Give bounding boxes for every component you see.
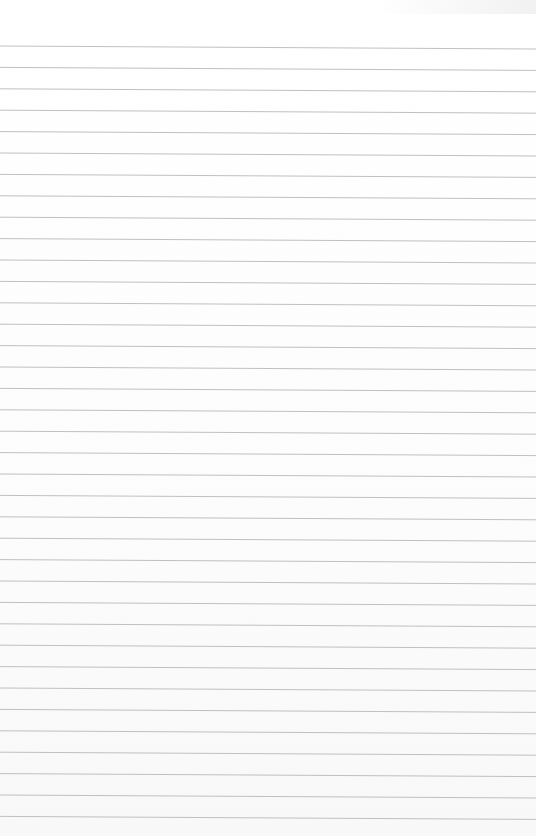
ruled-line	[0, 602, 536, 605]
ruled-line	[0, 774, 536, 777]
ruled-line	[0, 538, 536, 541]
ruled-line	[0, 431, 536, 434]
ruled-line	[0, 581, 536, 584]
ruled-line	[0, 367, 536, 370]
ruled-line	[0, 174, 536, 177]
ruled-line	[0, 67, 536, 70]
ruled-line	[0, 474, 536, 477]
ruled-line	[0, 688, 536, 691]
ruled-line	[0, 517, 536, 520]
ruled-line	[0, 731, 536, 734]
ruled-lines	[0, 0, 536, 836]
ruled-line	[0, 795, 536, 798]
ruled-line	[0, 645, 536, 648]
ruled-line	[0, 132, 536, 135]
ruled-line	[0, 453, 536, 456]
ruled-line	[0, 260, 536, 263]
ruled-line	[0, 709, 536, 712]
ruled-line	[0, 217, 536, 220]
ruled-line	[0, 624, 536, 627]
ruled-line	[0, 560, 536, 563]
lined-paper-sheet	[0, 0, 536, 836]
ruled-line	[0, 239, 536, 242]
ruled-line	[0, 303, 536, 306]
ruled-line	[0, 324, 536, 327]
ruled-line	[0, 110, 536, 113]
ruled-line	[0, 667, 536, 670]
ruled-line	[0, 153, 536, 156]
ruled-line	[0, 388, 536, 391]
ruled-line	[0, 346, 536, 349]
ruled-line	[0, 495, 536, 498]
ruled-line	[0, 46, 536, 49]
ruled-line	[0, 816, 536, 819]
ruled-line	[0, 89, 536, 92]
ruled-line	[0, 196, 536, 199]
ruled-line	[0, 281, 536, 284]
ruled-line	[0, 410, 536, 413]
ruled-line	[0, 752, 536, 755]
